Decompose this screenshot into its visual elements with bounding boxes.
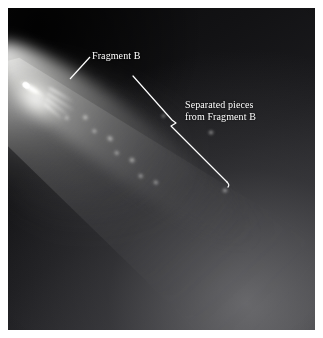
comet-tail bbox=[8, 8, 315, 330]
separated-piece bbox=[222, 188, 228, 193]
astronomical-image-plate bbox=[8, 8, 315, 330]
separated-piece bbox=[208, 130, 214, 135]
separated-piece bbox=[161, 114, 166, 118]
comet-figure: Fragment B Separated pieces from Fragmen… bbox=[0, 0, 323, 338]
comet-tail-group bbox=[8, 8, 315, 330]
